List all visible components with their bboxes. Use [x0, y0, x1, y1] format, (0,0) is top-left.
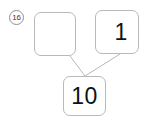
number-bond-whole-box[interactable]: 10 [63, 76, 106, 116]
problem-number-badge: 16 [9, 10, 24, 25]
number-bond-part-box-left[interactable] [34, 12, 76, 56]
number-bond-part-box-right[interactable]: 1 [95, 10, 139, 54]
connector-line-left [70, 56, 85, 76]
connector-line-right [85, 54, 120, 76]
number-bond-worksheet: 16 1 10 [0, 0, 152, 126]
